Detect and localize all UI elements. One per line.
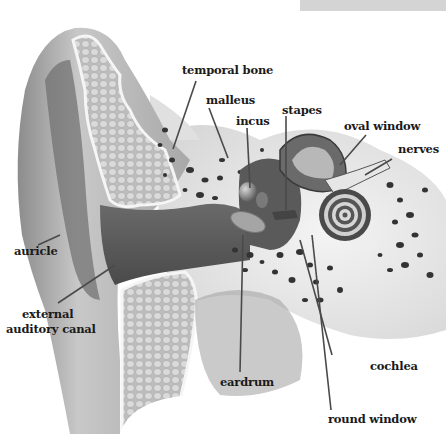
label-temporal-bone: temporal bone (182, 64, 273, 77)
malleus-shape (239, 182, 257, 202)
label-cochlea: cochlea (370, 360, 418, 373)
label-incus: incus (236, 115, 270, 128)
label-oval-window: oval window (344, 120, 420, 133)
label-malleus: malleus (206, 94, 255, 107)
label-eardrum: eardrum (220, 376, 274, 389)
incus-shape (256, 192, 268, 208)
label-auricle: auricle (14, 245, 58, 258)
label-nerves: nerves (398, 143, 439, 156)
label-external-line1: external (22, 308, 73, 321)
label-round-window: round window (328, 413, 416, 426)
cochlea-shape (319, 189, 371, 241)
label-stapes: stapes (282, 104, 322, 117)
label-external-line2: auditory canal (6, 323, 96, 336)
ear-anatomy-diagram: temporal bone malleus incus stapes oval … (0, 0, 446, 434)
